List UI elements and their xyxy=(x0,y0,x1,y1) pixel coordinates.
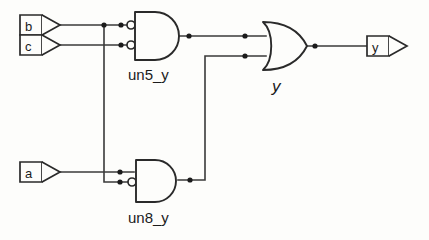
input-port-c[interactable]: c xyxy=(20,35,60,55)
junction-dot-or-in1 xyxy=(242,53,247,58)
schematic-svg: b c a un5_y un8_y y xyxy=(0,0,429,240)
gate-un5y-input1-inversion-bubble-icon xyxy=(127,41,135,49)
junction-dot-un8y-in1 xyxy=(117,179,122,184)
gate-un8y-input1-inversion-bubble-icon xyxy=(128,178,136,186)
input-port-a[interactable]: a xyxy=(20,162,60,182)
gate-un5y-body-and-shape-icon xyxy=(135,12,179,60)
output-port-y[interactable]: y xyxy=(367,36,407,56)
gate-y-body-or-shape-icon xyxy=(263,22,307,70)
gate-y-label: y xyxy=(271,77,282,96)
gate-un8y-body-and-shape-icon xyxy=(136,160,176,202)
input-port-b-label: b xyxy=(25,19,32,34)
output-port-y-arrow-icon xyxy=(389,36,407,56)
junction-dot-or-in0 xyxy=(242,33,247,38)
input-port-a-label: a xyxy=(25,166,33,181)
junction-dot-a-tap xyxy=(117,169,122,174)
junction-dot-or-out xyxy=(312,43,317,48)
gate-un5y-label: un5_y xyxy=(128,66,169,83)
input-port-a-arrow-icon xyxy=(42,162,60,182)
junction-dot-un5y-out xyxy=(186,33,191,38)
wire-b-drop-to-un8y xyxy=(104,25,128,182)
output-port-y-label: y xyxy=(372,40,379,55)
gate-y-or[interactable]: y xyxy=(263,22,307,96)
gate-un5y-input0-inversion-bubble-icon xyxy=(127,21,135,29)
junction-dot-un5y-in1 xyxy=(118,42,123,47)
input-port-c-arrow-icon xyxy=(42,35,60,55)
input-port-c-label: c xyxy=(25,39,32,54)
wire-un8y-to-or xyxy=(178,56,266,180)
input-port-b[interactable]: b xyxy=(20,15,60,35)
gate-un8y-label: un8_y xyxy=(128,209,169,226)
schematic-canvas: b c a un5_y un8_y y xyxy=(0,0,429,240)
junction-dot-b-tap xyxy=(101,22,106,27)
gate-un5y[interactable]: un5_y xyxy=(127,12,179,83)
input-port-b-arrow-icon xyxy=(42,15,60,35)
wire-layer xyxy=(60,25,367,182)
junction-dot-un8y-out xyxy=(187,177,192,182)
junction-dot-un5y-in0 xyxy=(118,22,123,27)
gate-un8y[interactable]: un8_y xyxy=(128,160,176,226)
